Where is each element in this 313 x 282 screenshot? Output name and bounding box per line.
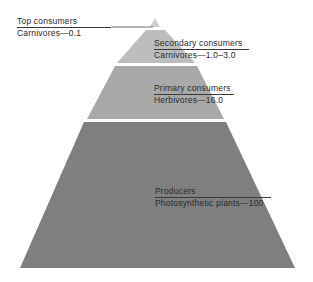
label-secondary-consumers: Secondary consumers Carnivores—1.0–3.0 <box>154 38 249 61</box>
tier-level: Primary consumers <box>154 83 234 95</box>
tier-detail: Carnivores—0.1 <box>17 28 111 39</box>
tier-level: Producers <box>155 186 271 198</box>
tier-level: Top consumers <box>17 16 111 28</box>
tier-top <box>150 18 160 27</box>
label-primary-consumers: Primary consumers Herbivores—16.0 <box>154 83 234 106</box>
tier-level: Secondary consumers <box>154 38 249 50</box>
tier-detail: Photosynthetic plants—100 <box>155 198 271 209</box>
label-producers: Producers Photosynthetic plants—100 <box>155 186 271 209</box>
tier-detail: Carnivores—1.0–3.0 <box>154 50 249 61</box>
label-top-consumers: Top consumers Carnivores—0.1 <box>17 16 111 39</box>
tier-detail: Herbivores—16.0 <box>154 95 234 106</box>
